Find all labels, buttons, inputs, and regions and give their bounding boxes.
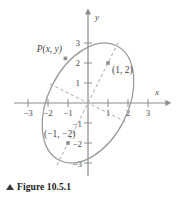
point-label-1-2: (1, 2) <box>112 65 133 76</box>
point-label-neg1-neg2: (−1, −2) <box>44 129 75 140</box>
coordinate-plot: −3 −2 −1 1 2 3 3 2 1 −1 −2 −3 x y <box>0 0 180 180</box>
y-tick-label-2: 2 <box>76 58 81 68</box>
x-axis-label: x <box>154 87 159 97</box>
axes-group <box>14 14 166 176</box>
caption-text: Figure 10.5.1 <box>17 182 71 192</box>
figure-container: −3 −2 −1 1 2 3 3 2 1 −1 −2 −3 x y <box>0 0 180 200</box>
x-tick-label-3: 3 <box>146 108 151 118</box>
point-marker-P <box>64 57 68 61</box>
point-marker-neg1-neg2 <box>66 141 70 145</box>
point-label-P: P(x, y) <box>36 44 62 55</box>
x-tick-label--1: −1 <box>63 108 73 118</box>
y-tick-label--3: −3 <box>72 159 82 169</box>
y-tick-label--2: −2 <box>72 139 82 149</box>
caption-triangle-icon <box>6 184 14 190</box>
y-axis-label: y <box>94 12 99 22</box>
point-marker-1-2 <box>106 61 110 65</box>
x-tick-label--2: −2 <box>43 108 53 118</box>
y-tick-label-1: 1 <box>76 78 81 88</box>
y-tick-label--1: −1 <box>72 119 82 129</box>
y-tick-label-3: 3 <box>76 38 81 48</box>
x-tick-label--3: −3 <box>23 108 33 118</box>
figure-caption: Figure 10.5.1 <box>6 178 176 196</box>
